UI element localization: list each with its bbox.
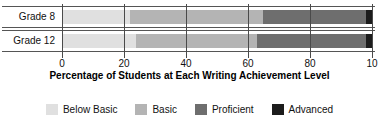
legend-swatch-icon — [272, 104, 284, 115]
x-tick-label-40: 40 — [180, 58, 191, 69]
chart-row-grade-12: Grade 12 — [0, 30, 379, 52]
bar-segment-basic — [136, 34, 257, 48]
gridline-80 — [310, 4, 311, 56]
legend-swatch-icon — [195, 104, 207, 115]
x-axis: 02040608010 — [0, 55, 379, 71]
chart-row-grade-8: Grade 8 — [0, 6, 379, 28]
plot-area: Grade 8 Grade 12 — [0, 4, 379, 56]
bar-segment-proficient — [257, 34, 366, 48]
x-tick-label-100: 10 — [366, 58, 377, 69]
gridline-0 — [62, 4, 63, 56]
row-label-grade-12: Grade 12 — [2, 30, 58, 52]
writing-achievement-chart: Grade 8 Grade 12 02040608010 Percentage … — [0, 0, 379, 125]
legend-item-basic[interactable]: Basic — [135, 104, 176, 115]
legend-item-advanced[interactable]: Advanced — [272, 104, 333, 115]
gridline-60 — [248, 4, 249, 56]
legend-item-below-basic[interactable]: Below Basic — [46, 104, 117, 115]
legend-label: Basic — [152, 104, 176, 115]
legend-swatch-icon — [135, 104, 147, 115]
row-label-grade-8: Grade 8 — [2, 6, 58, 28]
bar-segment-proficient — [263, 10, 365, 24]
stacked-bar-grade-12 — [62, 34, 372, 48]
bar-segment-below-basic — [62, 10, 130, 24]
gridline-100 — [372, 4, 373, 56]
gridline-40 — [186, 4, 187, 56]
stacked-bar-grade-8 — [62, 10, 372, 24]
legend-label: Proficient — [212, 104, 254, 115]
x-tick-label-0: 0 — [59, 58, 65, 69]
gridline-20 — [124, 4, 125, 56]
x-axis-title: Percentage of Students at Each Writing A… — [0, 70, 379, 82]
legend-swatch-icon — [46, 104, 58, 115]
bar-segment-below-basic — [62, 34, 136, 48]
x-tick-label-80: 80 — [304, 58, 315, 69]
legend-item-proficient[interactable]: Proficient — [195, 104, 254, 115]
bar-segment-basic — [130, 10, 263, 24]
x-tick-label-60: 60 — [242, 58, 253, 69]
chart-legend: Below BasicBasicProficientAdvanced — [0, 101, 379, 117]
legend-label: Below Basic — [63, 104, 117, 115]
x-tick-label-20: 20 — [118, 58, 129, 69]
legend-label: Advanced — [289, 104, 333, 115]
